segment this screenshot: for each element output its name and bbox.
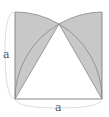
diagram: a a [0, 0, 109, 117]
bottom-side-label: a [55, 102, 62, 113]
shaded-left-region [15, 12, 59, 99]
left-side-label: a [3, 49, 10, 60]
shaded-right-region [59, 12, 102, 99]
square-arcs-figure [0, 0, 109, 117]
